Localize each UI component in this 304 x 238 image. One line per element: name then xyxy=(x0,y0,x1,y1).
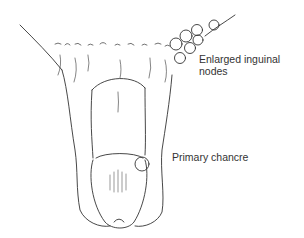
primary-chancre-lesion xyxy=(135,157,149,171)
label-nodes-line1: Enlarged inguinal xyxy=(199,53,299,65)
label-nodes-line2: nodes xyxy=(199,65,299,77)
label-primary-chancre: Primary chancre xyxy=(172,151,248,163)
label-enlarged-inguinal-nodes: Enlarged inguinal nodes xyxy=(199,53,299,77)
anatomical-illustration xyxy=(0,0,304,238)
right-groin-line xyxy=(205,15,235,36)
shaft xyxy=(91,90,93,158)
pubic-hair xyxy=(55,43,170,47)
left-groin-line xyxy=(20,25,62,70)
